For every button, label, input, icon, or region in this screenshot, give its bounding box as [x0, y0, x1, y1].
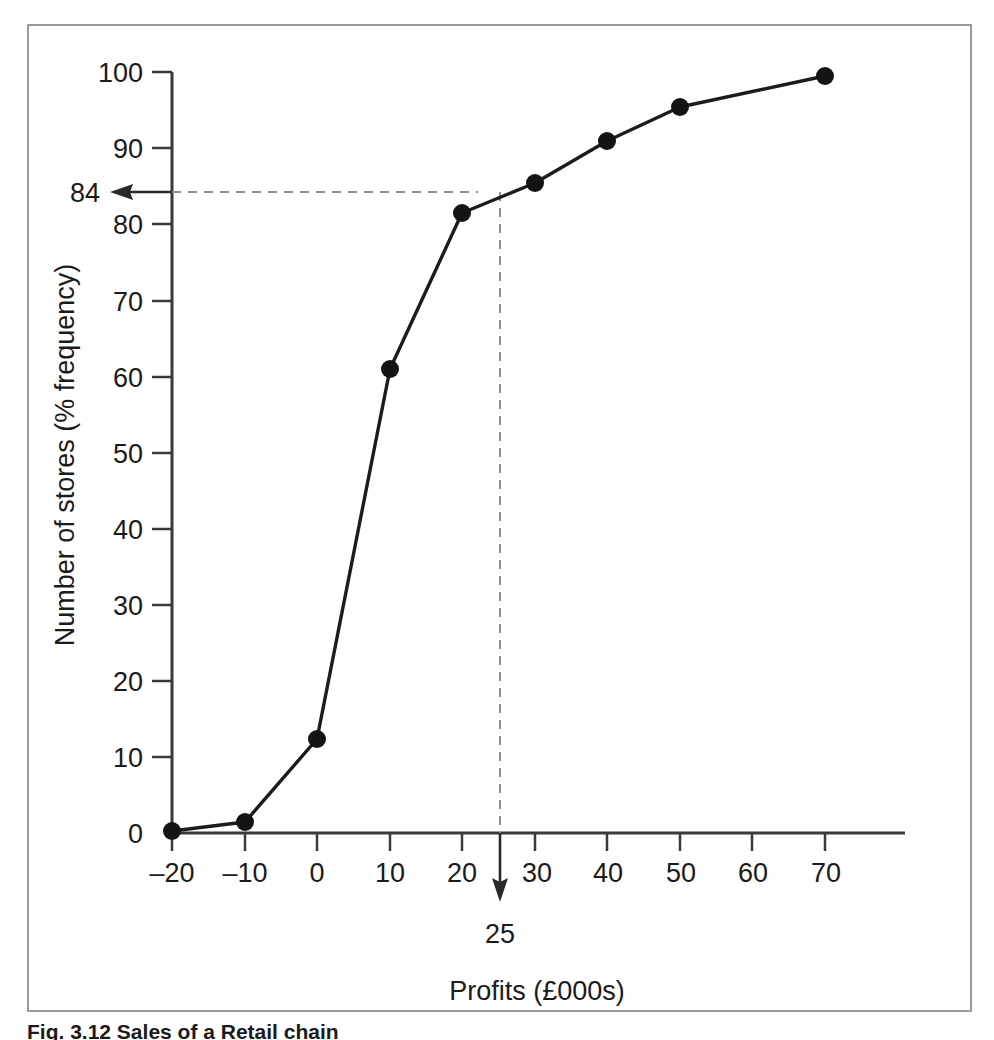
x-tick-label-20: 20 — [447, 858, 477, 888]
y-tick-label-40: 40 — [113, 515, 143, 545]
data-point-marker — [308, 730, 326, 748]
y-tick-label-70: 70 — [113, 287, 143, 317]
y-tick-label-100: 100 — [98, 58, 143, 88]
x-tick-label-30: 30 — [522, 858, 552, 888]
y-tick-label-60: 60 — [113, 363, 143, 393]
data-point-marker — [381, 360, 399, 378]
data-series-cumulative-frequency — [163, 67, 834, 840]
y-axis-group: 100 90 80 70 60 50 40 30 20 10 0 — [98, 58, 172, 849]
x-25-value-label: 25 — [485, 919, 515, 949]
y-tick-label-50: 50 — [113, 439, 143, 469]
data-point-marker — [526, 174, 544, 192]
y-axis-ticks — [152, 72, 172, 757]
x-tick-label-10: 10 — [375, 858, 405, 888]
y-tick-label-20: 20 — [113, 667, 143, 697]
annotation-y-84: 84 — [70, 178, 478, 208]
y-tick-label-80: 80 — [113, 210, 143, 240]
x-tick-label-60: 60 — [738, 858, 768, 888]
data-point-marker — [236, 813, 254, 831]
x-axis-group: –20 –10 0 10 20 30 40 50 60 70 — [149, 833, 905, 888]
cumulative-frequency-chart: 100 90 80 70 60 50 40 30 20 10 0 –20 –10… — [0, 0, 994, 1040]
data-polyline — [172, 76, 825, 831]
x-tick-label-minus20: –20 — [149, 858, 194, 888]
x-tick-label-0: 0 — [309, 858, 324, 888]
data-point-marker — [453, 204, 471, 222]
y-tick-label-10: 10 — [113, 743, 143, 773]
y-84-arrow-head — [110, 184, 133, 200]
y-84-value-label: 84 — [70, 178, 100, 208]
x-axis-title: Profits (£000s) — [449, 976, 625, 1006]
x-tick-label-70: 70 — [811, 858, 841, 888]
data-point-marker — [163, 822, 181, 840]
y-tick-label-0: 0 — [128, 819, 143, 849]
figure-caption: Fig. 3.12 Sales of a Retail chain — [27, 1020, 967, 1040]
data-point-marker — [598, 132, 616, 150]
data-point-marker — [671, 98, 689, 116]
x-tick-label-minus10: –10 — [222, 858, 267, 888]
x-axis-ticks — [172, 833, 825, 851]
x-tick-label-50: 50 — [666, 858, 696, 888]
y-tick-label-90: 90 — [113, 134, 143, 164]
y-axis-title: Number of stores (% frequency) — [50, 264, 80, 647]
data-point-marker — [816, 67, 834, 85]
annotation-x-25: 25 — [485, 192, 515, 949]
y-tick-label-30: 30 — [113, 591, 143, 621]
x-tick-label-40: 40 — [593, 858, 623, 888]
